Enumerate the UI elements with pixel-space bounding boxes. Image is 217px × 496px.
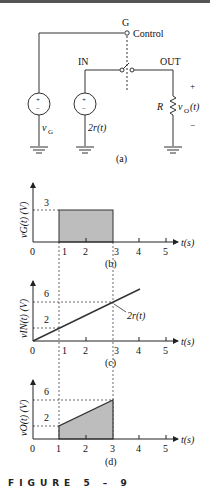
in-source-label: 2r(t) (88, 122, 107, 134)
ramp-line (33, 289, 140, 341)
figure-svg: G Control IN OUT + − + − v G 2r(t) + R v… (0, 0, 217, 496)
circuit-labels: G Control IN OUT + − + − v G 2r(t) + R v… (36, 17, 200, 165)
x-tick-0: 0 (30, 345, 35, 356)
y-tick-3: 3 (44, 197, 49, 208)
y-axis-label: vO(t) (V) (18, 399, 30, 436)
x-tick-2: 2 (83, 345, 88, 356)
ramp-annotation: 2r(t) (127, 310, 146, 322)
switch-blade (123, 63, 129, 69)
x-axis-label: t(s) (181, 336, 195, 348)
x-tick-5: 5 (163, 443, 168, 454)
y-tick-2: 2 (44, 412, 49, 423)
vg-pulse-area (59, 210, 113, 242)
chart-vo: 6 2 0 1 2 3 4 5 t(s) vO(t) (V) (d) (18, 380, 195, 468)
x-tick-1: 1 (62, 246, 67, 257)
vg-label: v (42, 122, 47, 133)
x-tick-0: 0 (30, 246, 35, 257)
caption-c: (c) (105, 357, 116, 369)
figure-caption: FIGURE 5 – 9 (8, 478, 132, 488)
x-tick-1: 1 (62, 345, 67, 356)
x-tick-4: 4 (136, 246, 141, 257)
out-plus: + (190, 81, 195, 91)
resistor-label: R (156, 101, 163, 112)
resistor (170, 96, 176, 115)
y-axis-label: vIN(t) (V) (18, 298, 30, 338)
x-tick-3: 3 (114, 246, 119, 257)
in-plus: + (82, 96, 86, 104)
caption-b: (b) (105, 258, 117, 270)
out-wire (134, 70, 173, 96)
vo-label: v (178, 101, 183, 112)
caption-d: (d) (105, 456, 117, 468)
y-tick-6: 6 (44, 386, 49, 397)
vo-arg: (t) (190, 101, 200, 113)
x-tick-3: 3 (110, 443, 115, 454)
chart-vg: 3 0 1 2 3 4 5 t(s) vG(t) (V) (b) (18, 183, 195, 270)
in-wire (85, 70, 120, 93)
switch-contact-out (130, 68, 134, 72)
y-tick-6: 6 (44, 288, 49, 299)
control-terminal (125, 31, 129, 35)
gate-label: G (122, 17, 129, 28)
vg-subscript: G (48, 128, 53, 136)
control-label: Control (133, 28, 164, 39)
y-axis-label: vG(t) (V) (18, 201, 30, 238)
caption-a: (a) (116, 153, 127, 165)
ramp-leader (114, 304, 126, 312)
x-tick-4: 4 (136, 345, 141, 356)
x-tick-5: 5 (163, 345, 168, 356)
in-label: IN (78, 56, 89, 67)
x-axis-label: t(s) (181, 434, 195, 446)
out-label: OUT (160, 56, 181, 67)
x-tick-2: 2 (83, 246, 88, 257)
y-tick-2: 2 (44, 314, 49, 325)
out-minus: − (190, 120, 195, 130)
chart-vin: 6 2 2r(t) 0 1 2 3 4 5 t(s) vIN(t) (V) (c… (18, 281, 195, 369)
x-tick-5: 5 (163, 246, 168, 257)
x-tick-1: 1 (56, 443, 61, 454)
vg-minus: − (36, 105, 40, 113)
x-axis-label: t(s) (181, 237, 195, 249)
vo-subscript: O (184, 107, 189, 115)
in-minus: − (82, 105, 86, 113)
x-tick-4: 4 (136, 443, 141, 454)
x-tick-0: 0 (30, 443, 35, 454)
vg-plus: + (36, 96, 40, 104)
x-tick-2: 2 (83, 443, 88, 454)
vo-output-area (59, 400, 113, 439)
x-tick-3: 3 (114, 345, 119, 356)
